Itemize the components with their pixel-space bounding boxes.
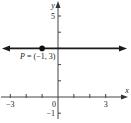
- left-arrow-icon: [2, 45, 10, 51]
- chart: −3035−1yxP = (−1, 3): [0, 0, 131, 123]
- x-axis-arrow-icon: [121, 95, 128, 100]
- right-arrow-icon: [119, 45, 127, 51]
- y-axis-arrow-icon: [56, 1, 61, 8]
- point-coords: = (−1, 3): [25, 52, 56, 61]
- x-axis-label: x: [124, 86, 129, 95]
- y-axis-label: y: [50, 1, 55, 10]
- point-P: [39, 46, 45, 52]
- point-P-label: P = (−1, 3): [19, 52, 56, 61]
- y-tick-label: 5: [51, 12, 55, 21]
- x-tick-label: 3: [104, 100, 108, 109]
- x-tick-label: −3: [6, 100, 15, 109]
- y-tick-label: −1: [46, 109, 55, 118]
- x-tick-label: 0: [52, 100, 56, 109]
